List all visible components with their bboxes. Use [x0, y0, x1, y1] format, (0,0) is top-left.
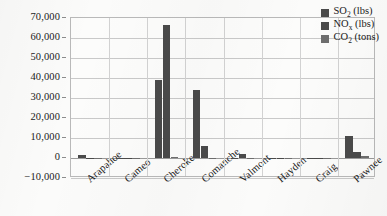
y-tick-label: 60,000: [31, 32, 60, 43]
y-tick-mark: [62, 137, 66, 138]
category-separator: [147, 18, 148, 176]
bar: [277, 158, 285, 159]
y-tick-label: 10,000: [31, 132, 60, 143]
bar-group: [262, 18, 300, 176]
bar: [155, 80, 163, 158]
chart-legend: SO2 (lbs)NOx (lbs)CO2 (tons): [319, 5, 381, 46]
y-tick-mark: [62, 17, 66, 18]
bar: [132, 158, 140, 159]
category-separator: [262, 18, 263, 176]
bar: [171, 157, 179, 158]
bar: [285, 158, 293, 159]
bar-group: [147, 18, 185, 176]
legend-swatch: [321, 9, 329, 17]
bar: [323, 158, 331, 159]
category-separator: [300, 18, 301, 176]
legend-item: NOx (lbs): [321, 19, 379, 32]
y-axis: 70,00060,00050,00040,00030,00020,00010,0…: [0, 17, 66, 177]
bar-group: [71, 18, 109, 176]
y-tick-mark: [62, 157, 66, 158]
bar: [209, 158, 217, 159]
y-tick-label: 70,000: [31, 12, 60, 23]
bar: [239, 154, 247, 158]
bar-group: [185, 18, 223, 176]
bar: [193, 90, 201, 158]
chart-figure: 70,00060,00050,00040,00030,00020,00010,0…: [0, 0, 387, 216]
bar-group: [224, 18, 262, 176]
legend-swatch: [321, 35, 329, 43]
legend-label: SO2 (lbs): [334, 6, 373, 19]
y-tick-mark: [62, 117, 66, 118]
bar: [345, 136, 353, 158]
bar-group: [109, 18, 147, 176]
bar: [231, 158, 239, 159]
category-separator: [109, 18, 110, 176]
bar: [163, 25, 171, 158]
legend-item: SO2 (lbs): [321, 6, 379, 19]
category-separator: [224, 18, 225, 176]
legend-label: NOx (lbs): [334, 19, 375, 32]
bar: [307, 158, 315, 159]
y-tick-label: 0: [55, 152, 60, 163]
y-tick-mark: [62, 57, 66, 58]
bar: [116, 158, 124, 159]
y-tick-label: 40,000: [31, 72, 60, 83]
bar: [86, 158, 94, 159]
y-tick-label: 20,000: [31, 112, 60, 123]
y-tick-mark: [62, 177, 66, 178]
bar: [124, 158, 132, 159]
bar: [94, 158, 102, 159]
y-tick-label: 50,000: [31, 52, 60, 63]
category-separator: [185, 18, 186, 176]
legend-label: CO2 (tons): [334, 32, 379, 45]
bar: [201, 146, 209, 158]
legend-swatch: [321, 22, 329, 30]
y-tick-label: 30,000: [31, 92, 60, 103]
x-axis: ArapahoeCameoCherokeeComancheValmontHayd…: [70, 177, 375, 216]
bar: [247, 158, 255, 159]
y-tick-mark: [62, 77, 66, 78]
bar: [269, 158, 277, 159]
y-tick-label: −10,000: [25, 172, 61, 183]
bar: [78, 155, 86, 158]
bar: [361, 156, 369, 158]
y-tick-mark: [62, 37, 66, 38]
bar: [353, 152, 361, 158]
y-tick-mark: [62, 97, 66, 98]
legend-item: CO2 (tons): [321, 32, 379, 45]
bar: [315, 158, 323, 159]
